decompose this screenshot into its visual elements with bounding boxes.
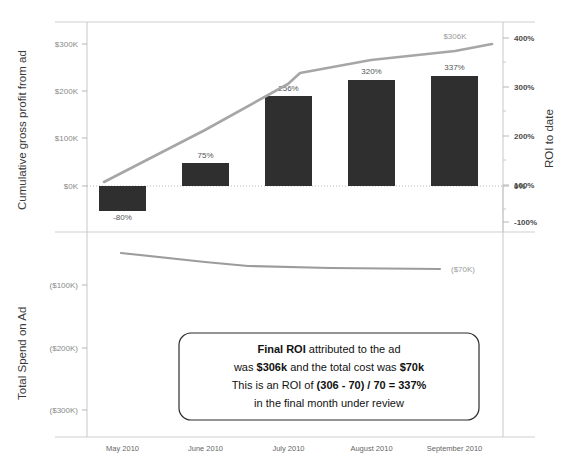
line-end-label-70k: ($70K) bbox=[451, 265, 475, 274]
callout-line-3: This is an ROI of (306 - 70) / 70 = 337% bbox=[232, 379, 427, 391]
xtick-label-may: May 2010 bbox=[106, 444, 139, 453]
roi-dual-panel-chart: $300K $200K $100K $0K Cumulative gross p… bbox=[0, 0, 572, 473]
final-roi-callout: Final ROI attributed to the ad was $306k… bbox=[179, 333, 479, 420]
chart-page: $300K $200K $100K $0K Cumulative gross p… bbox=[0, 0, 572, 473]
callout-line-2-b: $306k bbox=[257, 361, 288, 373]
line-end-label-306k: $306K bbox=[443, 32, 467, 41]
callout-line-2-d: $70k bbox=[400, 361, 425, 373]
table-row[interactable] bbox=[431, 76, 478, 186]
bar-value-label-august: 320% bbox=[361, 67, 381, 76]
xtick-label-july: July 2010 bbox=[272, 444, 304, 453]
ytick-label-300pct: 300% bbox=[514, 83, 534, 92]
ytick-label-100pct: 100% bbox=[514, 181, 534, 190]
table-row[interactable] bbox=[182, 163, 229, 186]
ytick-label-0k: $0K bbox=[64, 182, 79, 191]
upper-right-axis: 400% 300% 200% 100% bbox=[503, 34, 534, 190]
table-row[interactable] bbox=[348, 80, 395, 186]
callout-line-1: Final ROI attributed to the ad bbox=[257, 343, 400, 355]
table-row[interactable] bbox=[265, 96, 312, 186]
callout-line-1-rest: attributed to the ad bbox=[306, 343, 401, 355]
callout-line-2-a: was bbox=[233, 361, 257, 373]
x-axis-category-labels: May 2010 June 2010 July 2010 August 2010… bbox=[106, 444, 482, 453]
callout-line-4: in the final month under review bbox=[254, 397, 404, 409]
ytick-label-neg100k: ($100K) bbox=[50, 281, 79, 290]
upper-right-axis-title: ROI to date bbox=[543, 109, 555, 168]
xtick-label-august: August 2010 bbox=[350, 444, 392, 453]
ytick-label-200pct: 200% bbox=[514, 132, 534, 141]
ytick-label-neg300k: ($300K) bbox=[50, 406, 79, 415]
upper-left-axis-title: Cumulative gross profit from ad bbox=[16, 50, 28, 210]
ytick-label-300k: $300K bbox=[55, 40, 79, 49]
callout-line-2: was $306k and the total cost was $70k bbox=[233, 361, 425, 373]
xtick-label-september: September 2010 bbox=[427, 444, 482, 453]
bar-value-label-september: 337% bbox=[444, 63, 464, 72]
callout-line-3-a: This is an ROI of bbox=[232, 379, 317, 391]
total-spend-line bbox=[121, 253, 440, 269]
lower-left-axis-title: Total Spend on Ad bbox=[16, 307, 28, 400]
callout-line-2-c: and the total cost was bbox=[287, 361, 400, 373]
xtick-label-june: June 2010 bbox=[188, 444, 223, 453]
ytick-label-100k: $100K bbox=[55, 134, 79, 143]
ytick-label-200k: $200K bbox=[55, 87, 79, 96]
table-row[interactable] bbox=[99, 186, 146, 211]
roi-bar-series bbox=[99, 76, 478, 211]
bar-value-label-may: -80% bbox=[113, 213, 132, 222]
callout-line-3-b: (306 - 70) / 70 = 337% bbox=[317, 379, 427, 391]
lower-left-axis: ($100K) ($200K) ($300K) bbox=[50, 281, 87, 415]
ytick-label-400pct: 400% bbox=[514, 34, 534, 43]
callout-line-1-bold: Final ROI bbox=[257, 343, 305, 355]
upper-left-axis: $300K $200K $100K $0K bbox=[55, 40, 87, 191]
ytick-label-neg200k: ($200K) bbox=[50, 344, 79, 353]
bar-value-label-june: 75% bbox=[197, 151, 213, 160]
